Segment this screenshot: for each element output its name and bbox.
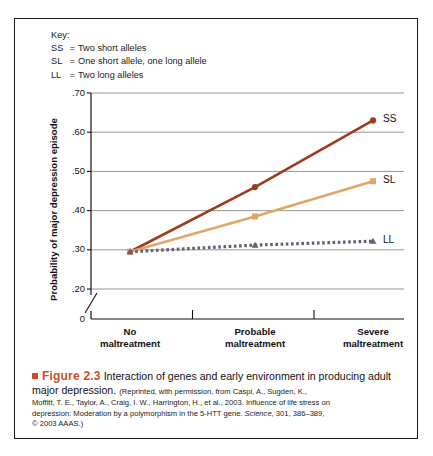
- data-point-sl-1: [252, 213, 258, 219]
- data-point-ll-1: [252, 242, 259, 248]
- series-end-label-ll: LL: [383, 234, 394, 245]
- data-point-ss-1: [252, 184, 258, 190]
- y-tick-label-p50: .50: [51, 165, 85, 176]
- data-point-sl-2: [370, 178, 376, 184]
- x-tick-line: No: [75, 326, 185, 338]
- y-tick-label-p40: .40: [51, 204, 85, 215]
- y-tick-label-p70: .70: [51, 87, 85, 98]
- caption-source-3b: 301, 386–389,: [274, 409, 325, 418]
- caption-source-3a: depression: Moderation by a polymorphism…: [32, 409, 245, 418]
- x-tick-label-2: Severemaltreatment: [318, 326, 428, 349]
- y-tick-label-p30: .30: [51, 243, 85, 254]
- x-tick-line: Probable: [200, 326, 310, 338]
- series-line-sl: [130, 181, 373, 252]
- caption-copyright: © 2003 AAAS.): [32, 419, 404, 430]
- data-point-ss-2: [370, 117, 376, 123]
- x-tick-label-0: Nomaltreatment: [75, 326, 185, 349]
- caption-source-line-2: Moffitt, T. E., Taylor, A., Craig, I. W.…: [32, 398, 404, 409]
- y-tick-label-p60: .60: [51, 126, 85, 137]
- x-tick-line: maltreatment: [75, 338, 185, 350]
- square-bullet-icon: [32, 373, 38, 379]
- series-end-label-ss: SS: [383, 113, 396, 124]
- figure-panel: Key: SS=Two short alleles SL=One short a…: [14, 18, 418, 439]
- y-tick-label-p20: .20: [51, 283, 85, 294]
- x-tick-line: Severe: [318, 326, 428, 338]
- caption-source-start: (Reprinted, with permission, from Caspi,…: [119, 387, 307, 396]
- caption-journal-name: Science,: [245, 409, 274, 418]
- x-tick-line: maltreatment: [318, 338, 428, 350]
- x-tick-label-1: Probablemaltreatment: [200, 326, 310, 349]
- x-tick-line: maltreatment: [200, 338, 310, 350]
- caption-figure-number: Figure 2.3: [42, 369, 101, 383]
- series-end-label-sl: SL: [383, 174, 395, 185]
- figure-caption: Figure 2.3 Interaction of genes and earl…: [32, 369, 404, 430]
- series-line-ss: [130, 120, 373, 251]
- caption-headline: Figure 2.3 Interaction of genes and earl…: [32, 369, 404, 398]
- caption-source-line-3: depression: Moderation by a polymorphism…: [32, 409, 404, 420]
- y-tick-label-0: 0: [51, 313, 85, 324]
